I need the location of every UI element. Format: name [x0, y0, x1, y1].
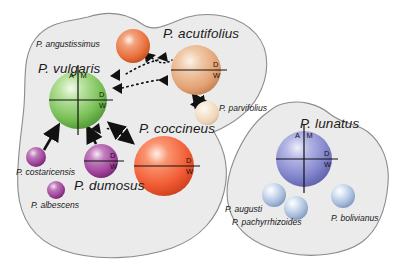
axis-label-d-acutifolius: D: [213, 61, 218, 68]
axis-label-d-vulgaris: D: [99, 91, 104, 98]
figure-canvas: P. angustissimusP. acutifoliusDWP. parvi…: [0, 0, 405, 278]
sphere-body-albescens: [47, 181, 65, 199]
axis-label-m-vulgaris: M: [81, 72, 87, 79]
sphere-costaricensis[interactable]: [26, 147, 46, 167]
species-label-parvifolius: P. parvifolius: [219, 104, 267, 113]
species-label-coccineus: P. coccineus: [139, 122, 215, 136]
axis-label-w-lunatus: W: [324, 161, 331, 168]
axis-label-w-acutifolius: W: [213, 72, 220, 79]
species-label-dumosus: P. dumosus: [74, 179, 145, 193]
axis-label-w-vulgaris: W: [99, 102, 106, 109]
sphere-body-bolivianus: [331, 184, 355, 208]
axis-label-a-vulgaris: A: [69, 72, 74, 79]
sphere-body-costaricensis: [26, 147, 46, 167]
species-label-albescens: P. albescens: [31, 201, 79, 210]
sphere-body-augusti: [262, 183, 286, 207]
species-label-costaricensis: P. costaricensis: [16, 168, 75, 177]
sphere-augusti[interactable]: [262, 183, 286, 207]
species-label-augusti: P. augusti: [225, 205, 262, 214]
axis-label-a-lunatus: A: [295, 132, 300, 139]
species-label-lunatus: P. lunatus: [300, 117, 359, 131]
sphere-angustissimus[interactable]: [116, 29, 150, 63]
axis-label-d-lunatus: D: [324, 150, 329, 157]
sphere-albescens[interactable]: [47, 181, 65, 199]
species-label-acutifolius: P. acutifolius: [163, 27, 239, 41]
axis-label-m-lunatus: M: [307, 132, 313, 139]
axis-label-d-dumosus: D: [110, 152, 115, 159]
axis-label-w-dumosus: W: [110, 163, 117, 170]
species-label-pachyrrhizoides: P. pachyrrhizoides: [232, 218, 302, 227]
species-label-angustissimus: P. angustissimus: [36, 40, 100, 49]
species-label-bolivianus: P. bolivianus: [331, 214, 379, 223]
sphere-body-angustissimus: [116, 29, 150, 63]
axis-label-d-coccineus: D: [186, 157, 191, 164]
axis-label-w-coccineus: W: [186, 168, 193, 175]
sphere-bolivianus[interactable]: [331, 184, 355, 208]
